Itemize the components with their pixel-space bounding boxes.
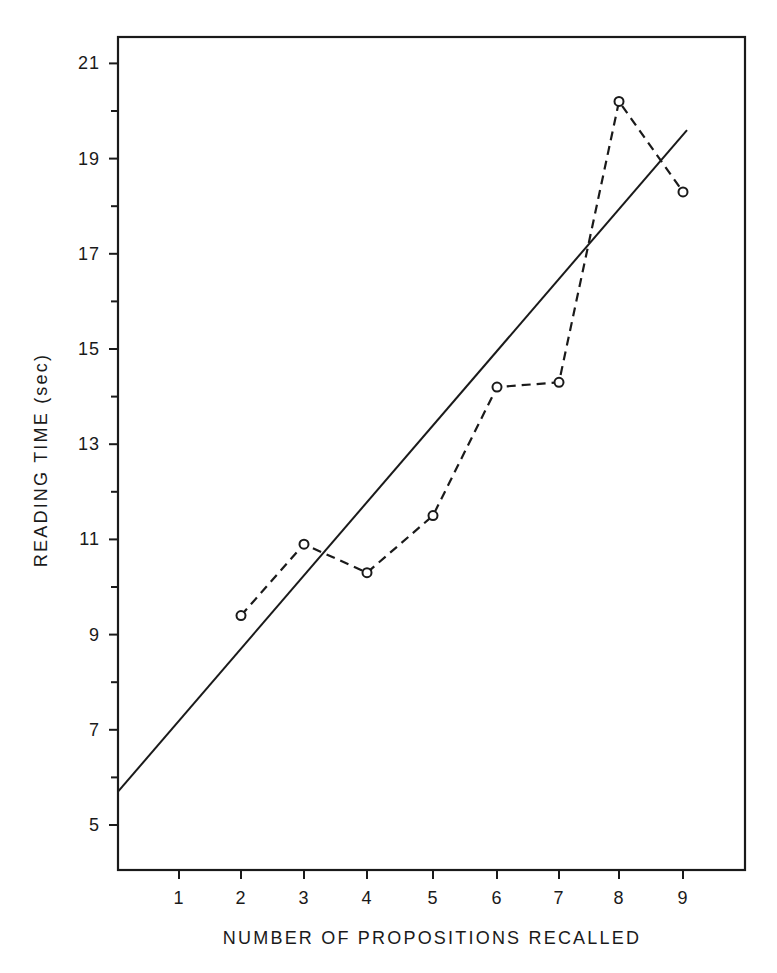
x-tick-label: 3 — [298, 888, 309, 908]
y-tick-label: 13 — [78, 434, 100, 454]
y-tick-label: 19 — [78, 149, 100, 169]
y-tick-label: 17 — [78, 244, 100, 264]
y-tick-label: 9 — [89, 625, 100, 645]
observed-data-line — [241, 101, 683, 615]
regression-line — [118, 130, 687, 792]
data-point — [493, 383, 502, 392]
x-tick-label: 6 — [491, 888, 502, 908]
y-tick-label: 7 — [89, 720, 100, 740]
data-point — [615, 97, 624, 106]
data-point — [363, 568, 372, 577]
x-tick-label: 1 — [173, 888, 184, 908]
x-tick-label: 7 — [553, 888, 564, 908]
x-tick-label: 8 — [613, 888, 624, 908]
data-point — [237, 611, 246, 620]
x-tick-label: 5 — [427, 888, 438, 908]
x-tick-label: 2 — [235, 888, 246, 908]
data-point-markers — [237, 97, 688, 620]
x-axis-label: NUMBER OF PROPOSITIONS RECALLED — [223, 928, 641, 948]
plot-frame — [118, 37, 745, 870]
data-point — [679, 187, 688, 196]
data-point — [300, 540, 309, 549]
x-axis-ticks: 123456789 — [173, 870, 688, 908]
y-tick-label: 15 — [78, 339, 100, 359]
y-axis-ticks: 579111315171921 — [78, 53, 118, 835]
y-tick-label: 5 — [89, 815, 100, 835]
x-tick-label: 9 — [677, 888, 688, 908]
x-tick-label: 4 — [361, 888, 372, 908]
data-point — [555, 378, 564, 387]
data-point — [429, 511, 438, 520]
y-axis-label: READING TIME (sec) — [31, 353, 51, 567]
y-tick-label: 11 — [79, 529, 100, 549]
chart: 579111315171921 123456789 NUMBER OF PROP… — [0, 0, 777, 973]
y-tick-label: 21 — [78, 53, 100, 73]
